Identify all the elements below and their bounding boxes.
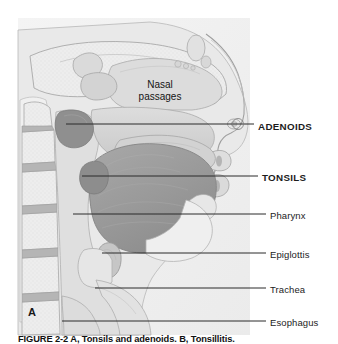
callout-label-trachea: Trachea <box>270 285 305 295</box>
larynx-cartilage <box>78 248 112 287</box>
tonsil-tissue <box>80 161 109 194</box>
nasal-passages-line1: Nasal <box>125 79 195 91</box>
callout-label-epiglottis: Epiglottis <box>270 250 310 260</box>
figure-caption: FIGURE 2-2 A, Tonsils and adenoids. B, T… <box>18 334 338 344</box>
callout-label-pharynx: Pharynx <box>270 211 306 221</box>
vertebral-column <box>20 97 60 335</box>
callout-label-tonsils: TONSILS <box>262 173 306 183</box>
callout-label-adenoids: ADENOIDS <box>258 122 312 132</box>
nasal-passages-line2: passages <box>125 91 195 103</box>
callout-label-esophagus: Esophagus <box>270 318 318 328</box>
adenoid-tissue <box>55 110 93 148</box>
inner-label-nasal-passages: Nasal passages <box>125 79 195 102</box>
panel-letter-a: A <box>28 306 36 318</box>
